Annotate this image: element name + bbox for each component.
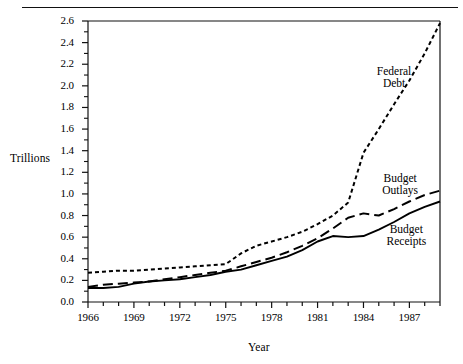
y-tick-label: 1.4 — [40, 145, 74, 156]
y-tick-label: 1.0 — [40, 188, 74, 199]
y-tick-label: 0.4 — [40, 253, 74, 264]
chart-figure: Trillions Year 0.00.20.40.60.81.01.21.41… — [0, 0, 463, 364]
y-tick-label: 0.0 — [40, 296, 74, 307]
y-tick-label: 1.2 — [40, 166, 74, 177]
series-label-budget-outlays-line2: Outlays — [340, 184, 460, 197]
series-label-federal-debt-line1: Federal — [334, 65, 454, 78]
y-tick-label: 0.6 — [40, 231, 74, 242]
series-label-budget-receipts-line1: Budget — [346, 223, 463, 236]
y-tick-label: 1.6 — [40, 123, 74, 134]
x-tick-label: 1984 — [343, 312, 383, 323]
y-tick-label: 2.2 — [40, 58, 74, 69]
series-label-federal-debt-line2: Debt — [334, 77, 454, 90]
x-tick-label: 1969 — [114, 312, 154, 323]
y-tick-label: 0.2 — [40, 274, 74, 285]
x-tick-label: 1987 — [389, 312, 429, 323]
y-tick-label: 2.6 — [40, 15, 74, 26]
y-tick-label: 1.8 — [40, 101, 74, 112]
x-tick-label: 1975 — [206, 312, 246, 323]
x-tick-label: 1966 — [68, 312, 108, 323]
series-label-budget-outlays: Budget Outlays — [340, 172, 460, 197]
series-label-budget-receipts: Budget Receipts — [346, 223, 463, 248]
x-tick-label: 1972 — [160, 312, 200, 323]
series-label-budget-receipts-line2: Receipts — [346, 235, 463, 248]
y-tick-label: 2.0 — [40, 80, 74, 91]
x-tick-label: 1978 — [252, 312, 292, 323]
y-tick-label: 2.4 — [40, 37, 74, 48]
series-label-budget-outlays-line1: Budget — [340, 172, 460, 185]
series-label-federal-debt: Federal Debt — [334, 65, 454, 90]
x-tick-label: 1981 — [298, 312, 338, 323]
y-tick-label: 0.8 — [40, 210, 74, 221]
